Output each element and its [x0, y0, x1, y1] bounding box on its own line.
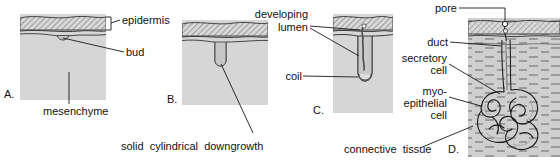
label-developing: developing — [222, 8, 308, 20]
label-connective-tissue: connective tissue — [344, 143, 431, 155]
label-epithelial: epithelial — [380, 97, 447, 109]
label-epidermis: epidermis — [122, 14, 170, 26]
label-pore: pore — [399, 2, 457, 14]
panel-letter-b: B. — [167, 93, 177, 105]
panel-letter-a: A. — [4, 88, 14, 100]
label-duct: duct — [399, 36, 448, 48]
panel-a-group — [20, 14, 106, 100]
panel-d-epidermis — [468, 20, 560, 34]
panel-a-epidermis — [20, 16, 106, 30]
panel-c-lumen-opening — [362, 24, 366, 28]
label-solid-cylindrical-downgrowth: solid cylindrical downgrowth — [121, 140, 263, 152]
label-myoepithelial-cell: cell — [380, 109, 447, 121]
label-bud: bud — [126, 46, 144, 58]
label-secretory: secretory — [380, 52, 447, 64]
panel-b-downgrowth-body — [215, 42, 226, 66]
label-mesenchyme: mesenchyme — [43, 105, 108, 117]
figure-canvas: epidermis bud mesenchyme solid cylindric… — [0, 0, 560, 165]
epidermis-leader — [106, 17, 120, 30]
panel-letter-c: C. — [313, 104, 324, 116]
label-lumen: lumen — [222, 21, 308, 33]
label-secretory-cell: cell — [380, 64, 447, 76]
panel-letter-d: D. — [448, 143, 459, 155]
label-myo: myo- — [380, 85, 447, 97]
panel-d-pore-acrosyringium — [503, 29, 507, 33]
panel-d-group — [468, 18, 560, 157]
label-coil: coil — [262, 70, 302, 82]
panel-d-pore — [502, 21, 507, 26]
